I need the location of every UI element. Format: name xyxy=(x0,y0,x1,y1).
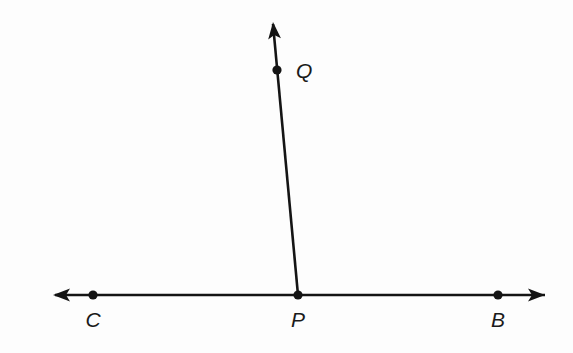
point-dot-p xyxy=(293,290,302,299)
point-label-b: B xyxy=(491,308,505,331)
point-label-p: P xyxy=(291,308,305,331)
point-dot-q xyxy=(272,65,281,74)
geometry-figure: C P B Q xyxy=(0,0,573,353)
point-dot-c xyxy=(88,290,97,299)
point-label-q: Q xyxy=(296,59,312,82)
point-dot-b xyxy=(493,290,502,299)
point-label-c: C xyxy=(85,308,101,331)
geometry-diagram-svg: C P B Q xyxy=(0,0,573,353)
